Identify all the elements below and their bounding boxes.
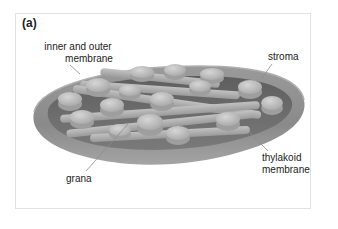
label-inner-outer-line2: membrane [40, 53, 116, 65]
label-stroma: stroma [268, 51, 299, 63]
label-inner-outer-line1: inner and outer [40, 41, 116, 53]
chloroplast-illustration [0, 0, 338, 229]
label-inner-outer-membrane: inner and outer membrane [40, 41, 116, 65]
label-thylakoid-membrane: thylakoid membrane [262, 152, 310, 176]
label-thylakoid-line2: membrane [262, 164, 310, 176]
leader-inner-outer-membrane [70, 65, 80, 74]
panel-label: (a) [22, 16, 37, 30]
label-grana: grana [66, 173, 92, 185]
label-thylakoid-line1: thylakoid [262, 152, 310, 164]
